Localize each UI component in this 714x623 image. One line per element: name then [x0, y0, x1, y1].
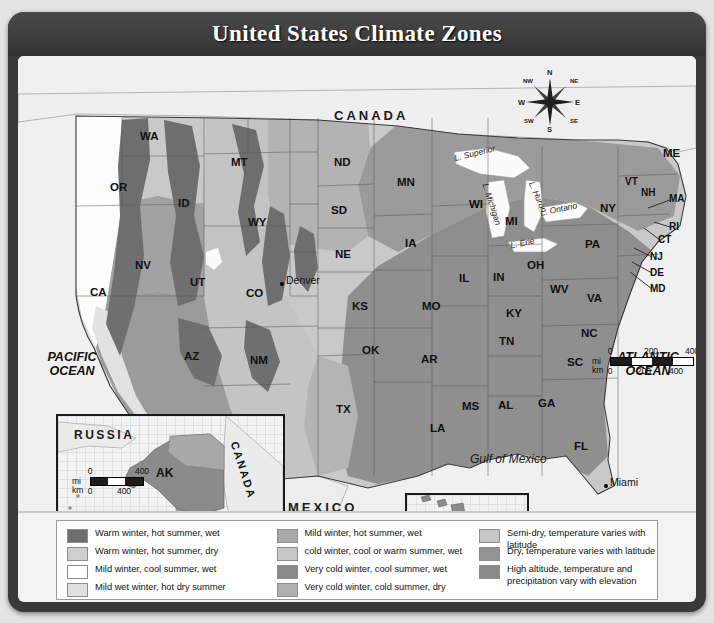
legend-label: Warm winter, hot summer, dry [95, 546, 218, 558]
compass-label-n: N [547, 68, 552, 77]
compass-label-s: S [547, 125, 552, 134]
legend-swatch [277, 583, 298, 597]
legend-swatch [479, 565, 500, 579]
compass-label-nw: NW [523, 78, 533, 84]
legend-item[interactable]: High altitude, temperature and precipita… [479, 564, 657, 590]
legend-label: Warm winter, hot summer, wet [95, 528, 220, 540]
compass-label-se: SE [570, 118, 578, 124]
scale-alaska-mi-tick-0: 0 [88, 466, 93, 476]
compass-rose: N NE E SE S SW W NW [518, 70, 582, 134]
legend-item[interactable]: Very cold winter, cold summer, dry [277, 582, 480, 597]
title-banner: United States Climate Zones [8, 12, 706, 56]
compass-label-sw: SW [524, 118, 534, 124]
divider [18, 511, 696, 513]
legend-column-1: Warm winter, hot summer, wet Warm winter… [57, 528, 277, 599]
legend-label: Very cold winter, cold summer, dry [305, 582, 446, 594]
map-legend: Warm winter, hot summer, wet Warm winter… [56, 520, 658, 600]
scale-alaska-mi-tick-1: 400 [135, 466, 149, 476]
legend-column-3: Semi-dry, temperature varies with latitu… [479, 528, 657, 599]
compass-label-ne: NE [570, 78, 578, 84]
legend-label: Mild wet winter, hot dry summer [95, 582, 226, 594]
scale-main-km-tick-1: 200 [637, 366, 651, 376]
alaska-inset-svg [58, 416, 283, 511]
scale-main-mi-tick-2: 400 [685, 346, 696, 356]
page-title: United States Climate Zones [212, 21, 502, 47]
legend-label: cold winter, cool or warm summer, wet [305, 546, 463, 558]
legend-label: Dry, temperature varies with latitude [507, 546, 655, 558]
city-dot-denver [280, 282, 284, 286]
scale-alaska-km-unit: km [72, 485, 87, 495]
scale-main-km-tick-2: 400 [669, 366, 683, 376]
legend-item[interactable]: Mild winter, cool summer, wet [67, 564, 277, 579]
scale-bar-alaska: 0 400 mi 0 400 [72, 466, 152, 495]
legend-label: Very cold winter, cool summer, wet [305, 564, 448, 576]
legend-item[interactable]: Mild winter, hot summer, wet [277, 528, 480, 543]
legend-item[interactable]: Warm winter, hot summer, wet [67, 528, 277, 543]
compass-label-w: W [518, 98, 525, 107]
legend-swatch [277, 529, 298, 543]
scale-main-km-tick-0: 0 [608, 366, 613, 376]
legend-swatch [67, 583, 88, 597]
map-canvas[interactable]: CANADA MEXICO PACIFIC OCEAN ATLANTIC OCE… [18, 56, 696, 511]
legend-item[interactable]: Warm winter, hot summer, dry [67, 546, 277, 561]
legend-item[interactable]: Mild wet winter, hot dry summer [67, 582, 277, 597]
legend-item[interactable]: cold winter, cool or warm summer, wet [277, 546, 480, 561]
legend-swatch [479, 529, 500, 543]
legend-swatch [277, 565, 298, 579]
legend-swatch [67, 565, 88, 579]
scale-main-mi-tick-1: 200 [644, 346, 658, 356]
hawaii-inset-svg [407, 495, 527, 511]
legend-label: Mild winter, cool summer, wet [95, 564, 216, 576]
inset-hawaii[interactable]: HI 0 100 mi 0 [405, 493, 529, 511]
compass-label-e: E [575, 98, 580, 107]
legend-swatch [479, 547, 500, 561]
legend-swatch [67, 547, 88, 561]
scale-main-mi-tick-0: 0 [608, 346, 613, 356]
inset-alaska[interactable]: AK RUSSIA CANADA 0 400 mi [56, 414, 285, 511]
legend-label: High altitude, temperature and precipita… [507, 564, 636, 587]
scale-alaska-km-tick-0: 0 [88, 486, 93, 496]
legend-label: Mild winter, hot summer, wet [305, 528, 422, 540]
city-dot-miami [604, 484, 608, 488]
legend-item[interactable]: Dry, temperature varies with latitude [479, 546, 657, 561]
legend-item[interactable]: Semi-dry, temperature varies with latitu… [479, 528, 657, 543]
scale-main-km-unit: km [592, 365, 607, 375]
legend-swatch [277, 547, 298, 561]
scale-alaska-km-tick-1: 400 [117, 486, 131, 496]
legend-swatch [67, 529, 88, 543]
map-card: United States Climate Zones [8, 12, 706, 612]
scale-bar-main: 0 200 400 mi 0 200 400 [592, 346, 696, 375]
legend-item[interactable]: Very cold winter, cool summer, wet [277, 564, 480, 579]
map-page: United States Climate Zones [0, 0, 714, 623]
legend-column-2: Mild winter, hot summer, wet cold winter… [277, 528, 480, 599]
